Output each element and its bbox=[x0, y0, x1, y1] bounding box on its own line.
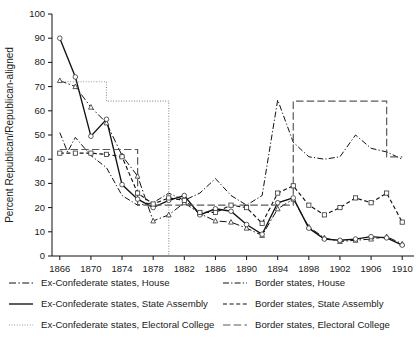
data-point-exc-assembly bbox=[353, 237, 358, 242]
data-point-exc-assembly bbox=[135, 197, 140, 202]
data-point-exc-assembly bbox=[229, 209, 234, 214]
legend-key-exc-assembly bbox=[8, 298, 34, 310]
data-point-bor-assembly bbox=[151, 202, 155, 206]
data-point-bor-assembly bbox=[136, 191, 140, 195]
data-point-exc-assembly bbox=[57, 36, 62, 41]
series-line-exc-ec bbox=[60, 82, 402, 256]
y-axis-title: Percent Republican/Republican-aligned bbox=[4, 47, 15, 223]
data-point-exc-assembly bbox=[400, 243, 405, 248]
data-point-exc-assembly bbox=[260, 232, 265, 237]
data-point-bor-assembly bbox=[307, 203, 311, 207]
data-point-bor-assembly bbox=[213, 210, 217, 214]
data-point-bor-assembly bbox=[198, 210, 202, 214]
data-point-exc-assembly bbox=[291, 196, 296, 201]
legend-item-label: Ex-Confederate states, Electoral College bbox=[41, 320, 214, 330]
legend-item-bor-ec[interactable]: Border states, Electoral College bbox=[222, 314, 390, 335]
data-point-bor-assembly bbox=[338, 206, 342, 210]
data-point-bor-assembly bbox=[73, 151, 77, 155]
data-point-bor-assembly bbox=[385, 191, 389, 195]
x-tick-label: 1910 bbox=[392, 263, 413, 272]
data-point-exc-house bbox=[57, 78, 62, 83]
legend-item-exc-house[interactable]: Ex-Confederate states, House bbox=[8, 272, 214, 293]
data-point-bor-assembly bbox=[58, 151, 62, 155]
legend-item-label: Border states, House bbox=[255, 278, 345, 288]
data-point-bor-assembly bbox=[244, 206, 248, 210]
y-tick-label: 70 bbox=[34, 81, 45, 92]
data-point-exc-assembly bbox=[182, 193, 187, 198]
x-tick-label: 1870 bbox=[80, 263, 101, 272]
legend-key-bor-ec bbox=[222, 319, 248, 331]
axis-lines bbox=[52, 14, 414, 256]
legend-key-exc-ec bbox=[8, 319, 34, 331]
data-point-exc-assembly bbox=[369, 234, 374, 239]
y-tick-label: 80 bbox=[34, 56, 45, 67]
x-tick-label: 1906 bbox=[361, 263, 382, 272]
legend-key-bor-assembly bbox=[222, 298, 248, 310]
chart-legend: Ex-Confederate states, HouseEx-Confedera… bbox=[0, 272, 418, 340]
data-point-exc-assembly bbox=[307, 226, 312, 231]
data-point-bor-assembly bbox=[400, 220, 404, 224]
data-point-bor-assembly bbox=[167, 196, 171, 200]
x-tick-label: 1878 bbox=[143, 263, 164, 272]
y-axis-ticks: 0102030405060708090100 bbox=[29, 8, 52, 261]
x-tick-label: 1866 bbox=[49, 263, 70, 272]
legend-item-label: Ex-Confederate states, State Assembly bbox=[41, 299, 208, 309]
data-point-exc-assembly bbox=[104, 117, 109, 122]
y-tick-label: 0 bbox=[40, 250, 45, 261]
line-chart-svg: Percent Republican/Republican-aligned 01… bbox=[0, 0, 418, 272]
y-tick-label: 50 bbox=[34, 129, 45, 140]
data-point-exc-assembly bbox=[322, 237, 327, 242]
x-tick-label: 1874 bbox=[111, 263, 132, 272]
y-tick-label: 90 bbox=[34, 32, 45, 43]
x-tick-label: 1890 bbox=[236, 263, 257, 272]
y-tick-label: 100 bbox=[29, 8, 45, 19]
data-point-exc-assembly bbox=[244, 222, 249, 227]
data-point-bor-assembly bbox=[291, 184, 295, 188]
legend-left-column: Ex-Confederate states, HouseEx-Confedera… bbox=[8, 272, 214, 335]
legend-key-exc-house bbox=[8, 277, 34, 289]
x-tick-label: 1886 bbox=[205, 263, 226, 272]
data-point-bor-assembly bbox=[276, 191, 280, 195]
y-tick-label: 20 bbox=[34, 202, 45, 213]
legend-key-bor-house bbox=[222, 277, 248, 289]
y-axis-label-group: Percent Republican/Republican-aligned bbox=[4, 47, 15, 223]
x-tick-label: 1894 bbox=[267, 263, 288, 272]
x-tick-label: 1902 bbox=[329, 263, 350, 272]
data-point-bor-assembly bbox=[89, 151, 93, 155]
data-point-bor-assembly bbox=[104, 152, 108, 156]
chart-figure: Percent Republican/Republican-aligned 01… bbox=[0, 0, 418, 340]
x-tick-label: 1898 bbox=[298, 263, 319, 272]
data-point-bor-assembly bbox=[229, 203, 233, 207]
data-point-exc-assembly bbox=[120, 182, 125, 187]
x-axis-ticks: 1866187018741878188218861890189418981902… bbox=[49, 256, 413, 272]
data-point-bor-assembly bbox=[182, 198, 186, 202]
series-line-bor-house bbox=[60, 100, 402, 205]
data-point-exc-assembly bbox=[384, 236, 389, 241]
y-tick-label: 40 bbox=[34, 153, 45, 164]
data-point-bor-assembly bbox=[369, 201, 373, 205]
data-point-bor-assembly bbox=[322, 213, 326, 217]
legend-item-label: Border states, State Assembly bbox=[255, 299, 384, 309]
series-line-bor-ec bbox=[60, 101, 402, 205]
legend-item-exc-ec[interactable]: Ex-Confederate states, Electoral College bbox=[8, 314, 214, 335]
data-point-exc-assembly bbox=[73, 75, 78, 80]
data-point-exc-assembly bbox=[275, 200, 280, 205]
legend-item-exc-assembly[interactable]: Ex-Confederate states, State Assembly bbox=[8, 293, 214, 314]
legend-item-bor-house[interactable]: Border states, House bbox=[222, 272, 390, 293]
y-tick-label: 60 bbox=[34, 105, 45, 116]
data-point-bor-assembly bbox=[260, 221, 264, 225]
data-point-bor-assembly bbox=[120, 155, 124, 159]
legend-item-bor-assembly[interactable]: Border states, State Assembly bbox=[222, 293, 390, 314]
x-tick-label: 1882 bbox=[174, 263, 195, 272]
plot-area: Percent Republican/Republican-aligned 01… bbox=[0, 0, 418, 272]
data-point-exc-house bbox=[166, 212, 171, 217]
y-tick-label: 30 bbox=[34, 177, 45, 188]
legend-item-label: Border states, Electoral College bbox=[255, 320, 390, 330]
series-line-exc-assembly bbox=[60, 38, 402, 245]
legend-right-column: Border states, HouseBorder states, State… bbox=[222, 272, 390, 335]
data-point-bor-assembly bbox=[353, 196, 357, 200]
legend-item-label: Ex-Confederate states, House bbox=[41, 278, 170, 288]
y-tick-label: 10 bbox=[34, 226, 45, 237]
marker-group bbox=[57, 36, 404, 248]
data-point-exc-assembly bbox=[89, 134, 94, 139]
